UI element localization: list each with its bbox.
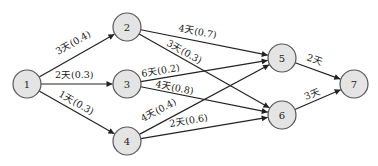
node-label: 6: [279, 110, 285, 121]
node-label: 7: [351, 79, 357, 90]
edge-label-5-7: 2天: [305, 52, 324, 68]
node-label: 4: [124, 136, 130, 147]
node-1: 1: [13, 70, 41, 98]
node-3: 3: [113, 70, 141, 98]
node-7: 7: [340, 70, 368, 98]
network-diagram: 3天(0.4)2天(0.3)1天(0.3)4天(0.7)3天(0.3)6天(0.…: [0, 0, 378, 166]
edge-label-1-3: 2天(0.3): [55, 69, 94, 80]
node-label: 2: [124, 22, 130, 33]
node-6: 6: [268, 101, 296, 129]
node-label: 5: [279, 53, 285, 64]
node-4: 4: [113, 127, 141, 155]
edge-label-1-2: 3天(0.4): [54, 28, 93, 57]
node-label: 1: [24, 79, 30, 90]
node-2: 2: [113, 13, 141, 41]
node-label: 3: [124, 79, 130, 90]
node-5: 5: [268, 44, 296, 72]
edge-label-4-6: 2天(0.6): [169, 112, 209, 129]
